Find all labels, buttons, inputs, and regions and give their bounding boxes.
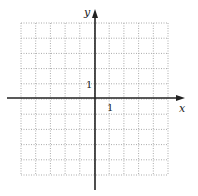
x-unit-label: 1 xyxy=(107,102,113,113)
coordinate-plane: y x 1 1 xyxy=(0,0,198,196)
x-axis-arrow-icon xyxy=(176,95,185,101)
y-axis-arrow-icon xyxy=(92,9,98,18)
y-axis-label: y xyxy=(83,6,91,19)
x-axis-label: x xyxy=(179,102,186,115)
y-unit-label: 1 xyxy=(86,79,92,90)
